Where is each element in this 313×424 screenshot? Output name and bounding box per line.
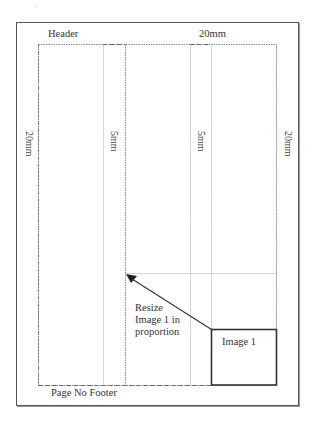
- top-margin-label: 20mm: [199, 28, 226, 40]
- resize-note-line3: proportion: [135, 326, 179, 338]
- resize-note-line1: Resize: [135, 302, 163, 314]
- resize-note-line2: Image 1 in: [135, 314, 180, 326]
- header-label: Header: [48, 28, 78, 40]
- image-1-label: Image 1: [222, 336, 256, 348]
- left-margin-label: 20mm: [24, 131, 34, 157]
- right-margin-label: 20mm: [283, 131, 293, 157]
- gutter-left-label: 5mm: [109, 131, 119, 152]
- gutter-right-label: 5mm: [196, 131, 206, 152]
- layout-guides: [0, 0, 313, 424]
- footer-label: Page No Footer: [51, 387, 117, 399]
